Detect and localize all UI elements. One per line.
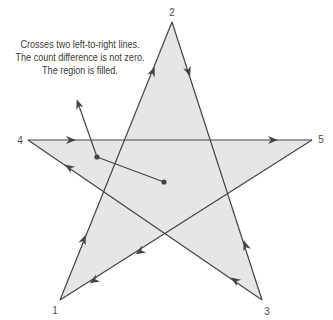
vertex-label-3: 3 xyxy=(264,306,270,317)
vertex-label-1: 1 xyxy=(52,305,58,316)
caption-line: The count difference is not zero. xyxy=(11,51,149,64)
caption-line: Crosses two left-to-right lines. xyxy=(11,38,149,51)
vertex-label-2: 2 xyxy=(169,7,175,18)
caption-line: The region is filled. xyxy=(11,64,149,77)
vertex-label-5: 5 xyxy=(318,134,324,145)
annotation-caption: Crosses two left-to-right lines. The cou… xyxy=(11,38,149,77)
vertex-label-4: 4 xyxy=(17,135,23,146)
probe-point-inner xyxy=(161,179,166,184)
probe-point-bend xyxy=(94,154,99,159)
